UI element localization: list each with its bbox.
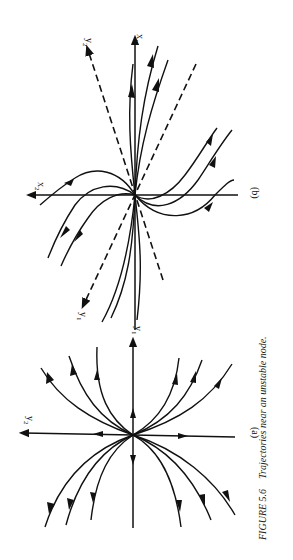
- arrow-icon: [130, 455, 136, 465]
- trajectory: [133, 360, 202, 435]
- trajectory: [69, 356, 133, 435]
- figure-caption: FIGURE 5.6Trajectories near an unstable …: [257, 336, 268, 541]
- panel-b-label: (b): [249, 187, 261, 199]
- trajectory: [135, 180, 234, 216]
- arrow-icon: [204, 202, 213, 212]
- x2-axis-label: x2: [33, 182, 47, 191]
- y2-dashed-axis: [88, 50, 163, 280]
- trajectory: [130, 64, 135, 195]
- panel-b: x1 x2 y2 y1: [31, 34, 238, 330]
- trajectory: [133, 435, 211, 520]
- arrow-icon: [70, 364, 77, 376]
- y2-axis-left: [24, 433, 133, 435]
- trajectory: [111, 195, 135, 318]
- x1-axis-label: x1: [132, 34, 146, 43]
- arrow-icon: [130, 408, 136, 418]
- arrow-icon: [178, 433, 188, 439]
- trajectory: [135, 195, 140, 320]
- trajectory: [41, 368, 133, 435]
- y2-axis-label: y2: [22, 416, 36, 425]
- trajectory: [61, 194, 135, 266]
- arrow-icon: [128, 84, 135, 98]
- arrow-icon: [152, 78, 159, 92]
- trajectory: [135, 128, 217, 199]
- y1-dashed-axis-label: y1: [75, 312, 89, 321]
- trajectory: [133, 435, 181, 527]
- y2-dashed-axis-label: y2: [81, 38, 95, 47]
- arrow-icon: [94, 370, 100, 380]
- arrow-icon: [199, 494, 205, 506]
- figure-canvas: x1 x2 y2 y1: [0, 0, 293, 560]
- panel-a: y1 y2: [22, 326, 235, 528]
- arrow-icon: [206, 134, 213, 146]
- trajectory: [45, 435, 133, 527]
- arrow-icon: [93, 431, 103, 437]
- trajectory: [48, 186, 135, 258]
- arrow-icon: [147, 54, 154, 68]
- arrow-icon: [172, 373, 178, 385]
- y1-axis-label: y1: [130, 326, 144, 335]
- arrow-icon: [190, 371, 196, 383]
